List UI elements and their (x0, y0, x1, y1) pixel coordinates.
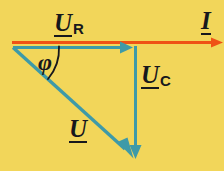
label-current: I (201, 8, 211, 35)
label-total-voltage-symbol: U (69, 116, 87, 143)
capacitor-voltage-phasor-uc (130, 46, 142, 159)
label-capacitor-voltage-subscript: C (160, 72, 171, 89)
label-resistor-voltage-subscript: R (73, 20, 84, 37)
phasor-diagram-canvas (0, 0, 224, 171)
label-total-voltage: U (69, 116, 87, 143)
label-capacitor-voltage: UC (141, 62, 170, 89)
current-phasor-arrowhead (211, 38, 223, 48)
label-capacitor-voltage-symbol: U (141, 62, 159, 89)
label-resistor-voltage: UR (54, 10, 83, 37)
phasor-diagram-figure: UR I UC U φ (0, 0, 224, 171)
label-phase-angle: φ (38, 50, 52, 74)
label-resistor-voltage-symbol: U (54, 10, 72, 37)
label-current-symbol: I (201, 8, 211, 35)
